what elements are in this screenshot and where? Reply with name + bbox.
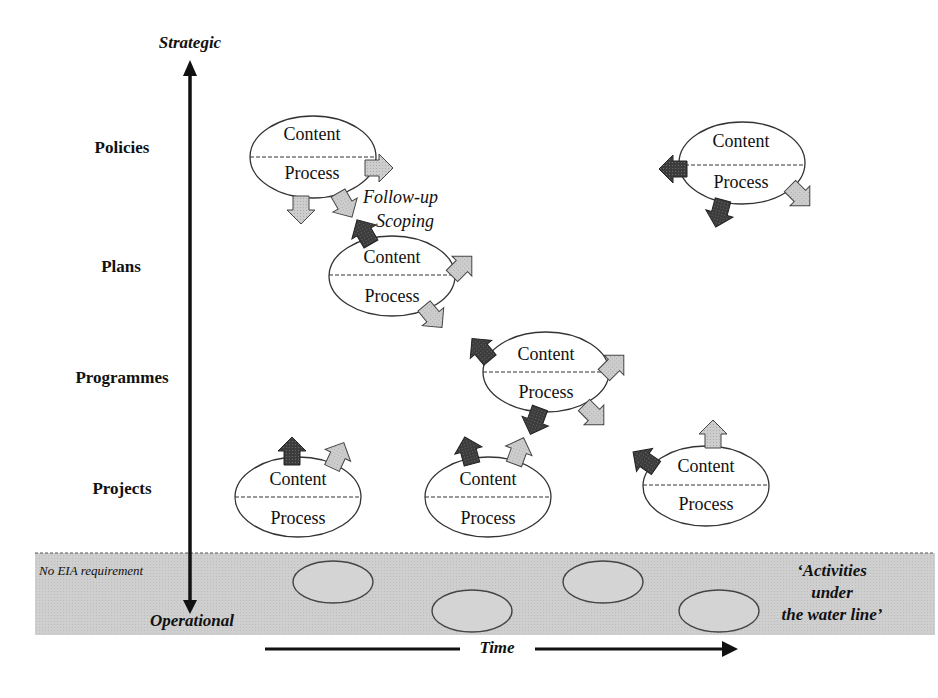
activities-under-waterline-label: ‘Activities under the water line’ (781, 560, 882, 626)
plans-content: Content (364, 247, 421, 268)
waterline-line-2: under (781, 582, 882, 604)
projects-1-process: Process (271, 508, 326, 529)
vertical-axis-arrow (183, 60, 197, 614)
operational-label: Operational (150, 611, 234, 631)
projects-2-content: Content (460, 469, 517, 490)
light-arrow-up-icon (699, 420, 727, 448)
waterline-line-3: the water line’ (781, 604, 882, 626)
projects-1-content: Content (270, 469, 327, 490)
follow-up-annotation: Follow-up (363, 187, 438, 208)
no-eia-requirement-label: No EIA requirement (39, 563, 143, 579)
policies-1-content: Content (284, 124, 341, 145)
level-plans: Plans (101, 257, 141, 277)
policies-1-process: Process (285, 163, 340, 184)
policies-2-process: Process (714, 172, 769, 193)
level-projects: Projects (92, 479, 151, 499)
scoping-annotation: Scoping (376, 211, 434, 232)
level-policies: Policies (95, 138, 150, 158)
programmes-process: Process (519, 382, 574, 403)
diagram-canvas: Strategic Operational Time Policies Plan… (0, 0, 938, 698)
time-label: Time (479, 638, 514, 658)
policies-2-content: Content (713, 131, 770, 152)
projects-3-content: Content (678, 456, 735, 477)
level-programmes: Programmes (75, 368, 168, 388)
light-arrow-down-icon (287, 196, 315, 224)
strategic-label: Strategic (159, 33, 221, 53)
projects-3-process: Process (679, 494, 734, 515)
programmes-content: Content (518, 344, 575, 365)
plans-process: Process (365, 286, 420, 307)
projects-2-process: Process (461, 508, 516, 529)
waterline-line-1: ‘Activities (781, 560, 882, 582)
